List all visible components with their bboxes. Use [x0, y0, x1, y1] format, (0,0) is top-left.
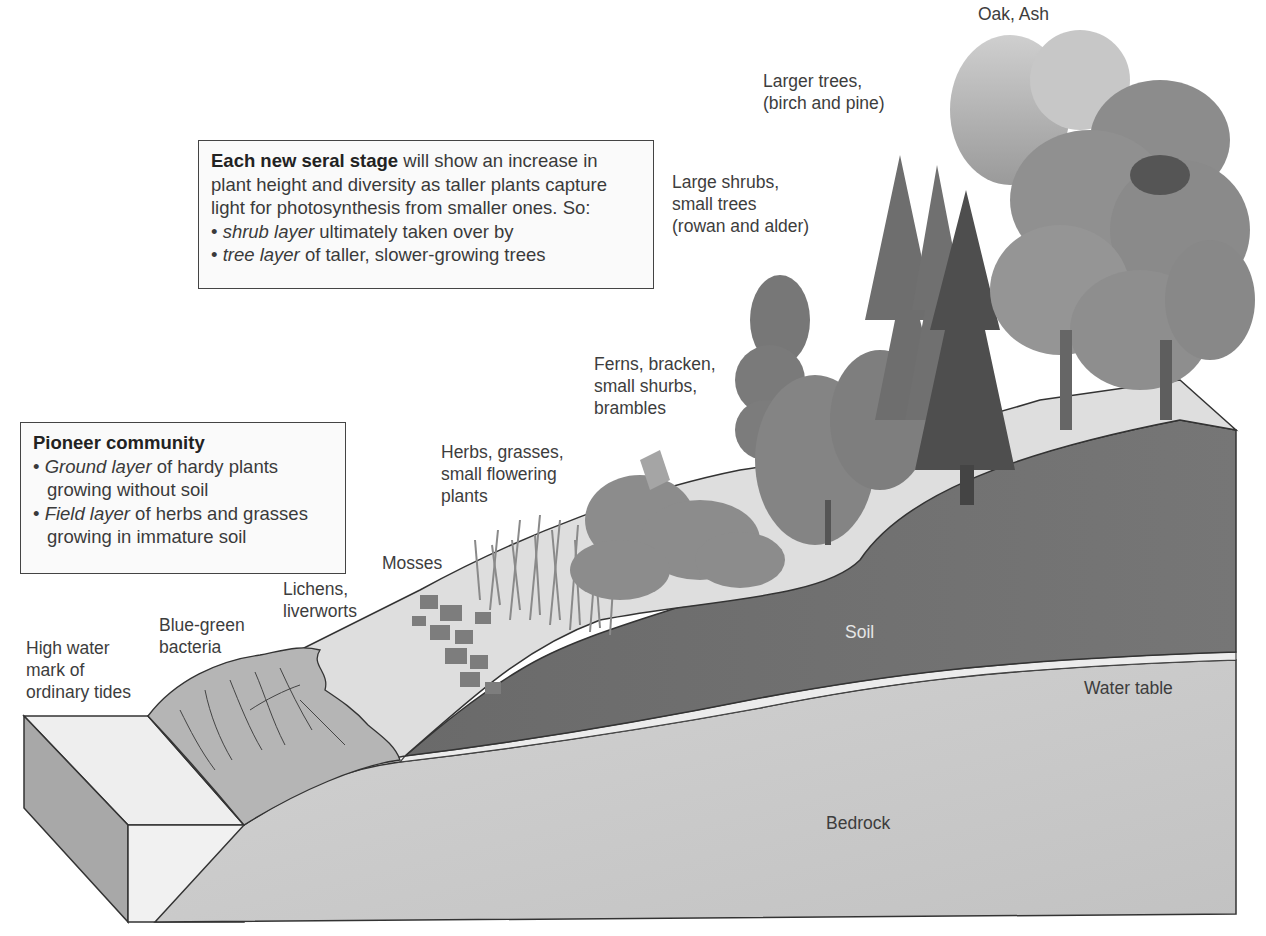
seral-bullet-2: • tree layer of taller, slower-growing t… [211, 243, 641, 267]
label-large-shrubs: Large shrubs,small trees(rowan and alder… [672, 171, 809, 237]
label-herbs: Herbs, grasses,small floweringplants [441, 441, 564, 507]
label-larger-trees: Larger trees,(birch and pine) [763, 70, 885, 114]
pioneer-bullet-2: • Field layer of herbs and grasses growi… [33, 502, 333, 549]
seral-bullet-1: • shrub layer ultimately taken over by [211, 220, 641, 244]
label-oak-ash: Oak, Ash [978, 3, 1049, 25]
label-soil: Soil [845, 621, 874, 643]
label-mosses: Mosses [382, 552, 442, 574]
label-ferns: Ferns, bracken,small shurbs,brambles [594, 353, 716, 419]
pioneer-title: Pioneer community [33, 432, 205, 453]
pioneer-community-box: Pioneer community • Ground layer of hard… [20, 422, 346, 574]
pioneer-bullet-1: • Ground layer of hardy plants growing w… [33, 455, 333, 502]
oak-ash-trees [950, 30, 1255, 430]
label-blue-green-bacteria: Blue-greenbacteria [159, 614, 245, 658]
label-bedrock: Bedrock [826, 812, 890, 834]
label-high-water-mark: High watermark ofordinary tides [26, 637, 131, 703]
label-lichens: Lichens,liverworts [283, 578, 357, 622]
seral-title: Each new seral stage [211, 150, 398, 171]
seral-stage-box: Each new seral stage will show an increa… [198, 140, 654, 289]
label-water-table: Water table [1084, 677, 1173, 699]
